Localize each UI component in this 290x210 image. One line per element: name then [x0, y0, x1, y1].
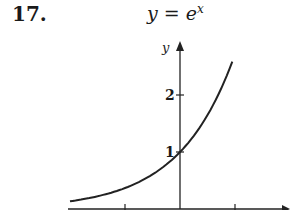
y-axis-arrow-icon	[176, 41, 184, 51]
y-axis-label: y	[161, 40, 170, 55]
y-tick-label-2: 2	[165, 87, 175, 103]
curve-line	[70, 62, 232, 202]
plot-area: y 2 1	[0, 0, 290, 210]
x-axis-arrow-icon	[282, 205, 290, 210]
